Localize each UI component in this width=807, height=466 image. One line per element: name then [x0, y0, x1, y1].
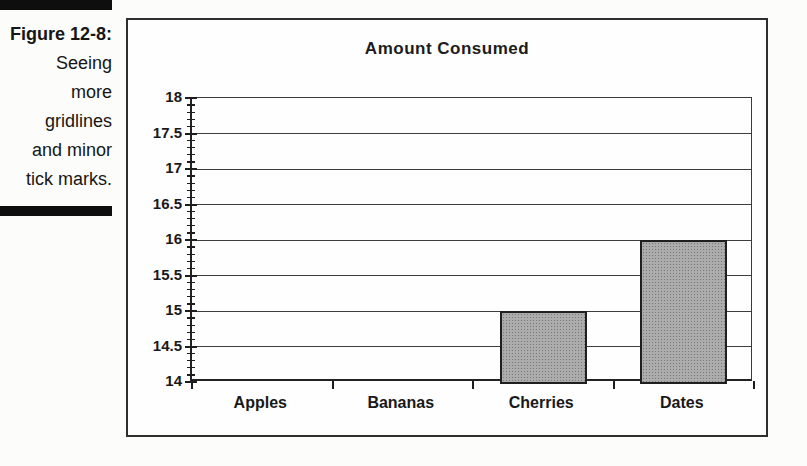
y-minor-tick [187, 119, 195, 120]
x-axis-tick [191, 381, 193, 389]
figure-caption-line: Seeing [0, 49, 112, 78]
x-axis-label-cherries: Cherries [471, 393, 612, 413]
y-minor-tick [187, 126, 195, 127]
y-axis-label-18: 18 [128, 88, 182, 106]
y-minor-tick [187, 282, 195, 283]
y-axis-label-17: 17 [128, 159, 182, 177]
y-major-tick [185, 239, 197, 241]
y-axis-label-15: 15 [128, 301, 182, 319]
y-minor-tick [187, 225, 195, 226]
y-minor-tick [187, 190, 195, 191]
x-axis-tick [613, 381, 615, 389]
y-minor-tick [187, 112, 195, 113]
figure-caption-text: Figure 12-8: Seeing more gridlines and m… [0, 10, 115, 206]
page: Figure 12-8: Seeing more gridlines and m… [0, 0, 807, 466]
y-minor-tick [187, 232, 195, 233]
bar-chart: Amount Consumed 1817.51716.51615.51514.5… [126, 18, 768, 437]
y-axis-label-14: 14 [128, 372, 182, 390]
y-major-tick [185, 133, 197, 135]
y-minor-tick [187, 367, 195, 368]
y-axis-label-17.5: 17.5 [128, 124, 182, 142]
y-minor-tick [187, 289, 195, 290]
gridline-16.5 [192, 204, 751, 205]
y-major-tick [185, 275, 197, 277]
y-minor-tick [187, 254, 195, 255]
y-axis-label-16: 16 [128, 230, 182, 248]
figure-caption-line: gridlines [0, 107, 112, 136]
bar-dates [640, 240, 727, 384]
x-axis-tick [332, 381, 334, 389]
y-minor-tick [187, 317, 195, 318]
y-minor-tick [187, 183, 195, 184]
y-axis-label-14.5: 14.5 [128, 337, 182, 355]
y-major-tick [185, 97, 197, 99]
y-minor-tick [187, 296, 195, 297]
bar-cherries [500, 311, 587, 384]
y-minor-tick [187, 325, 195, 326]
plot-area [190, 97, 752, 381]
y-minor-tick [187, 211, 195, 212]
y-minor-tick [187, 197, 195, 198]
y-minor-tick [187, 218, 195, 219]
figure-caption-number: Figure 12-8: [0, 20, 112, 49]
y-major-tick [185, 346, 197, 348]
y-minor-tick [187, 268, 195, 269]
x-axis-label-apples: Apples [190, 393, 331, 413]
y-minor-tick [187, 161, 195, 162]
figure-caption-line: and minor [0, 136, 112, 165]
y-minor-tick [187, 154, 195, 155]
gridline-17 [192, 169, 751, 170]
y-minor-tick [187, 303, 195, 304]
y-minor-tick [187, 374, 195, 375]
y-minor-tick [187, 147, 195, 148]
y-major-tick [185, 168, 197, 170]
y-minor-tick [187, 360, 195, 361]
y-major-tick [185, 310, 197, 312]
y-minor-tick [187, 104, 195, 105]
y-minor-tick [187, 332, 195, 333]
caption-rule-top [0, 0, 112, 10]
y-major-tick [185, 204, 197, 206]
y-axis-label-15.5: 15.5 [128, 266, 182, 284]
y-minor-tick [187, 175, 195, 176]
caption-rule-bottom [0, 206, 112, 216]
figure-caption-line: more [0, 78, 112, 107]
chart-title: Amount Consumed [128, 39, 766, 59]
figure-caption: Figure 12-8: Seeing more gridlines and m… [0, 0, 115, 216]
y-minor-tick [187, 261, 195, 262]
x-axis-label-bananas: Bananas [331, 393, 472, 413]
y-minor-tick [187, 246, 195, 247]
x-axis-tick [472, 381, 474, 389]
y-minor-tick [187, 353, 195, 354]
figure-caption-line: tick marks. [0, 165, 112, 194]
x-axis-label-dates: Dates [612, 393, 753, 413]
y-axis-label-16.5: 16.5 [128, 195, 182, 213]
x-axis-tick [753, 381, 755, 389]
y-minor-tick [187, 140, 195, 141]
gridline-17.5 [192, 133, 751, 134]
y-minor-tick [187, 339, 195, 340]
